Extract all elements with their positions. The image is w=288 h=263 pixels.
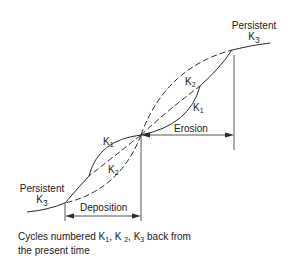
persistent-text: Persistent [14, 183, 70, 194]
upper-k1-label: K1 [193, 103, 204, 116]
k3-label: K3 [14, 194, 70, 209]
persistent-label-top: Persistent K3 [224, 20, 284, 46]
persistent-text: Persistent [224, 20, 284, 31]
erosion-arrowhead-right [225, 133, 234, 138]
k3-label: K3 [224, 31, 284, 46]
deposition-arrowhead-right [132, 214, 141, 219]
deposition-arrowhead-left [65, 214, 74, 219]
lower-k1-label: K1 [103, 137, 114, 150]
caption-line-1: Cycles numbered K1, K 2, K3 back from [18, 231, 191, 245]
deposition-label: Deposition [80, 202, 127, 213]
persistent-label-bottom: Persistent K3 [14, 183, 70, 209]
lower-k2-label: K2 [108, 165, 119, 178]
upper-k2-label: K2 [185, 77, 196, 90]
caption-line-2: the present time [18, 245, 191, 256]
figure-caption: Cycles numbered K1, K 2, K3 back from th… [18, 231, 191, 256]
erosion-label: Erosion [174, 123, 208, 134]
